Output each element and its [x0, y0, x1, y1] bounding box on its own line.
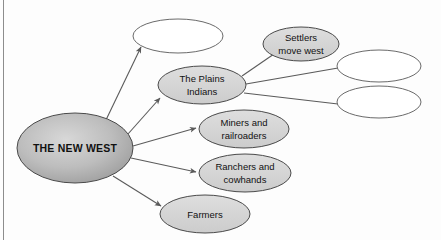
node-farmers[interactable]: Farmers	[160, 195, 250, 233]
connector-plains-indians-to-settlers	[242, 54, 274, 76]
node-settlers-move-west-line-1: Settlers	[285, 32, 317, 43]
node-the-plains-indians-line-1: The Plains	[180, 73, 225, 84]
concept-map-diagram: Settlers move west The Plains Indians Mi…	[0, 0, 441, 240]
connector-new-west-to-miners	[133, 128, 196, 146]
node-blank-right-lower[interactable]	[337, 86, 421, 118]
connector-new-west-to-blank-top-left	[105, 47, 141, 122]
node-the-new-west[interactable]: THE NEW WEST	[17, 113, 133, 183]
node-miners-and-railroaders-line-2: railroaders	[222, 130, 267, 141]
connector-new-west-to-plains-indians	[128, 98, 160, 134]
node-miners-and-railroaders-line-1: Miners and	[221, 117, 268, 128]
connector-plains-indians-to-blank-right-lower	[244, 93, 338, 104]
connector-new-west-to-farmers	[113, 176, 161, 206]
node-ranchers-and-cowhands-line-1: Ranchers and	[215, 161, 274, 172]
node-the-plains-indians-line-2: Indians	[187, 86, 218, 97]
diagram-page: Settlers move west The Plains Indians Mi…	[0, 0, 441, 240]
connectors-from-plains-indians	[242, 54, 338, 104]
connector-plains-indians-to-blank-right-upper	[246, 68, 338, 84]
node-miners-and-railroaders[interactable]: Miners and railroaders	[199, 110, 289, 148]
node-blank-right-upper[interactable]	[337, 50, 421, 82]
node-farmers-line-1: Farmers	[187, 209, 223, 220]
node-the-plains-indians[interactable]: The Plains Indians	[158, 66, 246, 104]
node-settlers-move-west[interactable]: Settlers move west	[263, 27, 339, 61]
node-ranchers-and-cowhands-line-2: cowhands	[224, 174, 267, 185]
node-ranchers-and-cowhands[interactable]: Ranchers and cowhands	[199, 154, 291, 192]
connector-new-west-to-ranchers	[131, 158, 196, 172]
node-the-new-west-label: THE NEW WEST	[33, 142, 117, 154]
node-settlers-move-west-line-2: move west	[278, 45, 324, 56]
node-blank-top-left[interactable]	[133, 19, 223, 53]
